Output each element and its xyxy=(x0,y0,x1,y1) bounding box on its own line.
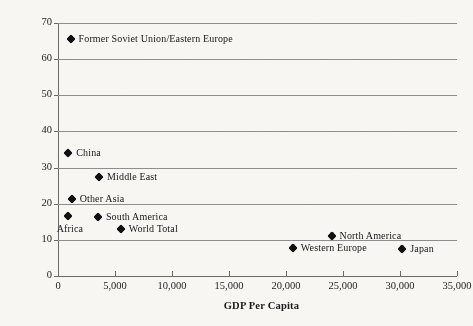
y-tick-label: 10 xyxy=(18,233,52,244)
scatter-chart-figure: Thousand BTU per 1999 Dollar of GDP 0102… xyxy=(0,0,473,326)
gridline xyxy=(58,131,457,132)
data-point-label: Other Asia xyxy=(80,193,125,204)
y-tick-label: 30 xyxy=(18,161,52,172)
data-point-label: China xyxy=(76,147,101,158)
data-point-label: South America xyxy=(106,211,168,222)
x-tick-label: 25,000 xyxy=(313,280,373,291)
y-tick-label: 0 xyxy=(18,269,52,280)
data-point-label: Western Europe xyxy=(301,242,367,253)
x-tick-mark xyxy=(343,271,344,276)
x-tick-label: 0 xyxy=(28,280,88,291)
y-tick-label: 20 xyxy=(18,197,52,208)
x-tick-label: 10,000 xyxy=(142,280,202,291)
data-point-label: Middle East xyxy=(107,171,157,182)
y-tick-label: 60 xyxy=(18,52,52,63)
y-tick-label: 50 xyxy=(18,88,52,99)
x-tick-label: 30,000 xyxy=(370,280,430,291)
gridline xyxy=(58,95,457,96)
x-tick-label: 5,000 xyxy=(85,280,145,291)
data-point-label: Africa xyxy=(57,223,83,234)
x-axis-line xyxy=(58,276,457,277)
x-tick-label: 35,000 xyxy=(427,280,473,291)
x-tick-mark xyxy=(286,271,287,276)
gridline xyxy=(58,59,457,60)
x-tick-mark xyxy=(229,271,230,276)
x-tick-mark xyxy=(58,271,59,276)
data-point-label: Former Soviet Union/Eastern Europe xyxy=(79,33,233,44)
x-tick-label: 20,000 xyxy=(256,280,316,291)
y-axis-ticks: 010203040506070 xyxy=(14,0,52,326)
x-tick-label: 15,000 xyxy=(199,280,259,291)
gridline xyxy=(58,168,457,169)
x-tick-mark xyxy=(172,271,173,276)
y-tick-label: 70 xyxy=(18,16,52,27)
y-tick-label: 40 xyxy=(18,124,52,135)
data-point-label: North America xyxy=(340,230,402,241)
data-point-label: World Total xyxy=(129,223,178,234)
x-tick-mark xyxy=(400,271,401,276)
data-point-label: Japan xyxy=(410,243,434,254)
gridline xyxy=(58,23,457,24)
x-tick-mark xyxy=(457,271,458,276)
x-tick-mark xyxy=(115,271,116,276)
x-axis-title: GDP Per Capita xyxy=(0,300,473,311)
